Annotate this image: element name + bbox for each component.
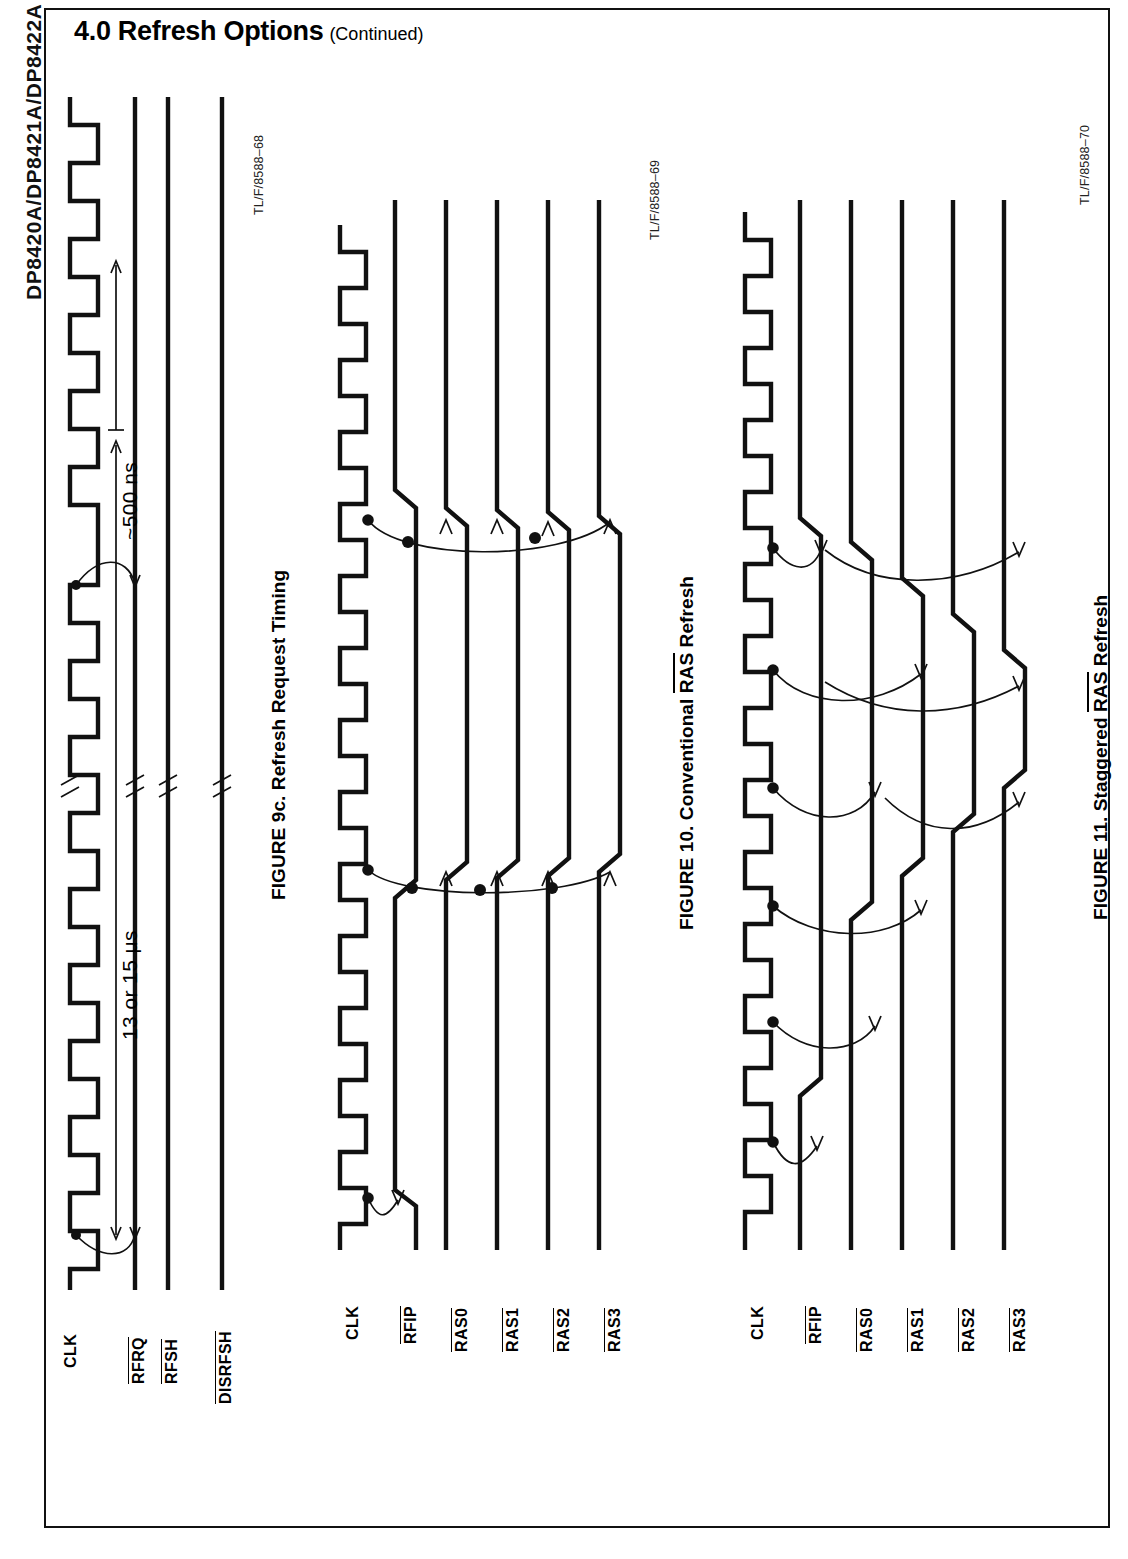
- figure-11-signal-ras3: RAS3: [1009, 1308, 1029, 1352]
- figure-11-signal-ras2: RAS2: [958, 1308, 978, 1352]
- figure-10-signal-clk: CLK: [344, 1306, 362, 1340]
- figure-10-signal-ras2: RAS2: [553, 1308, 573, 1352]
- figure-10-caption: FIGURE 10. Conventional RAS Refresh: [676, 576, 698, 930]
- figure-10-signal-ras1: RAS1: [502, 1308, 522, 1352]
- figure-9c-signal-rfrq: RFRQ: [128, 1337, 148, 1384]
- figure-10-caption-lead: FIGURE 10. Conventional: [676, 693, 697, 930]
- figure-9c-caption-text: FIGURE 9c. Refresh Request Timing: [268, 570, 289, 900]
- figure-11-source-id: TL/F/8588–70: [1078, 125, 1092, 205]
- figure-9c-signal-rfsh: RFSH: [161, 1339, 181, 1384]
- page-title: 4.0 Refresh Options(Continued): [74, 16, 423, 47]
- figure-11-caption-lead: FIGURE 11. Staggered: [1090, 712, 1111, 920]
- figure-11-caption: FIGURE 11. Staggered RAS Refresh: [1090, 595, 1112, 920]
- figure-9c-annotation-pulse-width: ~500 ns: [118, 462, 142, 540]
- figure-10-waveform: [320, 190, 635, 1265]
- figure-10-caption-tail: Refresh: [676, 576, 697, 653]
- figure-10-signal-ras3: RAS3: [604, 1308, 624, 1352]
- figure-9c-waveform: [40, 85, 255, 1300]
- figure-11-signal-clk: CLK: [749, 1306, 767, 1340]
- figure-9c-caption: FIGURE 9c. Refresh Request Timing: [268, 570, 290, 900]
- figure-10-source-id: TL/F/8588–69: [648, 160, 662, 240]
- figure-9c-source-id: TL/F/8588–68: [252, 135, 266, 215]
- figure-10-caption-ras: RAS: [673, 653, 697, 693]
- figure-11-caption-ras: RAS: [1087, 672, 1111, 712]
- section-title: 4.0 Refresh Options: [74, 16, 323, 46]
- figure-11-waveform: [725, 190, 1040, 1265]
- figure-11-signal-rfip: RFIP: [805, 1306, 825, 1344]
- figure-9c-annotation-period: 13 or 15 μs: [118, 930, 142, 1040]
- figure-11-caption-tail: Refresh: [1090, 595, 1111, 672]
- datasheet-page: DP8420A/DP8421A/DP8422A 4.0 Refresh Opti…: [0, 0, 1128, 1559]
- section-continued-note: (Continued): [329, 24, 423, 44]
- figure-11-signal-ras0: RAS0: [856, 1308, 876, 1352]
- figure-11-signal-ras1: RAS1: [907, 1308, 927, 1352]
- figure-10-signal-rfip: RFIP: [400, 1306, 420, 1344]
- figure-10-signal-ras0: RAS0: [451, 1308, 471, 1352]
- figure-9c-signal-clk: CLK: [62, 1334, 80, 1368]
- figure-9c-signal-disrfsh: DISRFSH: [215, 1331, 235, 1404]
